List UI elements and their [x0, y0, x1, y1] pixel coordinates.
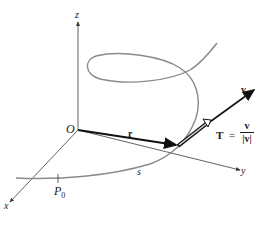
fraction-denominator: |v| — [240, 133, 254, 144]
origin-label: O — [66, 123, 75, 135]
z-axis-label: z — [75, 10, 79, 20]
position-vector-r — [78, 130, 176, 145]
diagram-svg — [0, 0, 275, 226]
tangent-label: T — [216, 130, 223, 141]
velocity-vector-label: v — [241, 85, 246, 95]
p0-label: P0 — [54, 185, 65, 200]
arc-length-label: s — [137, 167, 141, 177]
space-curve — [16, 43, 217, 178]
tangent-fraction: v |v| — [240, 121, 254, 144]
x-axis-label: x — [4, 201, 8, 211]
position-vector-label: r — [128, 129, 132, 139]
equals-sign: = — [229, 130, 235, 141]
diagram-canvas: z O x y P0 r s v T = v |v| — [0, 0, 275, 226]
fraction-numerator: v — [240, 121, 254, 132]
x-axis — [10, 130, 78, 202]
p0-subscript: 0 — [61, 191, 65, 200]
y-axis-label: y — [241, 166, 245, 176]
